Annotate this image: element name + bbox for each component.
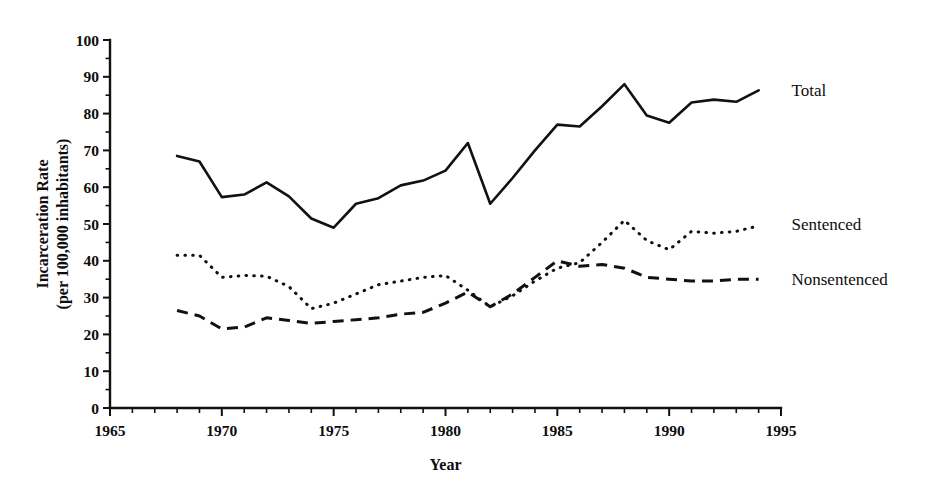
y-tick-label: 90 [84,68,100,85]
x-axis-tick-labels: 1965197019751980198519901995 [95,422,797,439]
y-tick-label: 60 [84,179,100,196]
x-tick-label: 1995 [766,422,797,439]
series-labels: TotalSentencedNonsentenced [791,81,888,290]
axes [110,40,781,408]
y-tick-label: 80 [84,105,100,122]
data-series [177,84,759,329]
series-line-total [177,84,759,228]
series-line-nonsentenced [177,261,759,329]
y-tick-label: 40 [84,252,100,269]
y-tick-label: 70 [84,142,100,159]
x-tick-label: 1985 [542,422,573,439]
y-axis-title-line2: (per 100,000 inhabitants) [54,139,72,310]
x-tick-label: 1970 [206,422,237,439]
x-tick-label: 1975 [318,422,349,439]
chart-figure: 0102030405060708090100 19651970197519801… [0,0,929,494]
x-tick-label: 1965 [95,422,126,439]
incarceration-rate-line-chart: 0102030405060708090100 19651970197519801… [0,0,929,494]
x-tick-label: 1990 [654,422,685,439]
y-tick-label: 0 [91,400,99,417]
x-axis-title: Year [430,456,462,473]
y-axis-tick-labels: 0102030405060708090100 [76,32,100,417]
y-axis-title-line1: Incarceration Rate [34,160,51,289]
series-line-sentenced [177,220,759,308]
series-label-sentenced: Sentenced [791,215,861,234]
axis-ticks [103,40,781,416]
y-tick-label: 10 [84,363,100,380]
series-label-nonsentenced: Nonsentenced [791,270,888,289]
y-tick-label: 50 [84,216,100,233]
y-tick-label: 20 [84,326,100,343]
y-tick-label: 30 [84,289,100,306]
series-label-total: Total [791,81,826,100]
axis-spine [110,40,781,408]
y-tick-label: 100 [76,32,100,49]
x-tick-label: 1980 [430,422,461,439]
